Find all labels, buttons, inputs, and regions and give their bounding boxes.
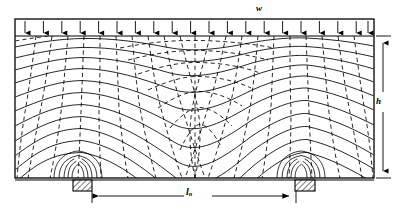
clear-span-label: ln bbox=[186, 186, 192, 197]
clear-span-subscript: n bbox=[189, 190, 192, 197]
support-block-left bbox=[73, 180, 92, 191]
dimension-ln bbox=[92, 191, 296, 203]
compression-trajectories bbox=[15, 38, 374, 213]
beam-outline bbox=[15, 19, 374, 178]
figure-root: w h ln bbox=[0, 0, 399, 213]
dimension-h bbox=[376, 36, 391, 178]
height-label: h bbox=[376, 96, 381, 106]
support-block-right bbox=[295, 180, 315, 191]
support-fan-right bbox=[277, 151, 325, 178]
load-label: w bbox=[256, 3, 262, 13]
load-arrows bbox=[25, 21, 368, 33]
stress-trajectory-figure bbox=[0, 0, 399, 213]
